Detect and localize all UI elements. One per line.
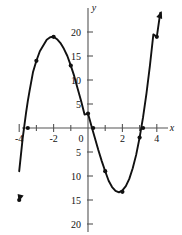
x-tick-label: 0 <box>79 133 84 144</box>
cubic-function-plot: -4-2024 20151055101520 x y <box>0 0 182 235</box>
x-axis-tick-labels: -4-2024 <box>15 133 159 144</box>
data-point-dot <box>34 59 38 63</box>
data-point-dot <box>69 64 73 68</box>
y-tick-label: 20 <box>71 219 81 230</box>
x-tick-label: 2 <box>120 133 125 144</box>
y-tick-label: 15 <box>71 51 81 62</box>
x-tick-label: 4 <box>154 133 159 144</box>
axes-group <box>22 8 168 232</box>
y-tick-label: 5 <box>76 147 81 158</box>
x-tick-label: -2 <box>49 133 57 144</box>
y-tick-label: 20 <box>71 27 81 38</box>
y-tick-label: 10 <box>71 171 81 182</box>
data-point-dot <box>138 136 142 140</box>
data-point-dot <box>120 190 124 194</box>
data-point-dot <box>155 35 159 39</box>
data-point-dot <box>86 112 90 116</box>
data-point-dot <box>26 126 30 130</box>
y-axis-label: y <box>91 2 97 13</box>
data-point-dot <box>91 126 95 130</box>
data-point-dot <box>52 35 56 39</box>
graph-figure: -4-2024 20151055101520 x y <box>0 0 182 235</box>
data-point-dot <box>141 126 145 130</box>
x-axis-label: x <box>169 122 175 133</box>
y-tick-label: 15 <box>71 195 81 206</box>
curve-arrowhead <box>156 11 162 19</box>
curve-arrowheads <box>18 11 163 202</box>
cubic-curve <box>19 13 160 193</box>
data-point-dot <box>103 169 107 173</box>
